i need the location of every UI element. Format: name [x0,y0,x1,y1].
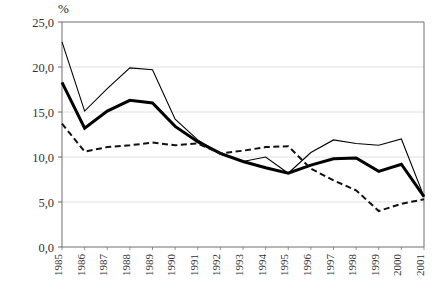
x-axis-tick-label: 2001 [414,254,426,276]
y-axis-unit-label: % [58,1,69,17]
y-axis-tick-label: 10,0 [32,151,54,165]
gridlines-group [62,67,424,202]
x-axis-tick-label: 1991 [188,254,200,276]
x-axis-tick-label: 2000 [391,254,403,277]
y-axis-tick-label: 25,0 [32,16,54,30]
series-line-thick-solid-line [62,82,424,196]
chart-figure: % 0,05,010,015,020,025,0 198519861987198… [0,0,440,300]
x-axis-tick-label: 1988 [120,254,132,277]
y-axis-tick-label: 5,0 [38,196,54,210]
x-axis-tick-label: 1989 [143,254,155,277]
x-axis-tick-label: 1998 [346,254,358,277]
x-axis-tick-label: 1995 [278,254,290,277]
x-axis-tick-label: 1999 [369,254,381,277]
y-axis-tick-labels: 0,05,010,015,020,025,0 [32,16,62,255]
y-axis-tick-label: 15,0 [32,106,54,120]
series-line-thin-solid-line [62,42,424,197]
x-axis-tick-label: 1987 [97,254,109,277]
x-axis-tick-label: 1985 [52,254,64,277]
x-axis-tick-label: 1994 [256,254,268,277]
x-axis-tick-label: 1992 [210,254,222,276]
x-axis-tick-label: 1997 [324,254,336,277]
line-chart: 0,05,010,015,020,025,0 19851986198719881… [0,0,440,300]
y-axis-tick-label: 20,0 [32,61,54,75]
plot-frame [62,22,424,247]
y-axis-tick-label: 0,0 [38,241,54,255]
x-axis-tick-label: 1993 [233,254,245,277]
x-axis-tick-labels: 1985198619871988198919901991199219931994… [52,247,426,276]
x-axis-tick-label: 1990 [165,254,177,277]
x-axis-tick-label: 1996 [301,254,313,277]
x-axis-tick-label: 1986 [75,254,87,277]
